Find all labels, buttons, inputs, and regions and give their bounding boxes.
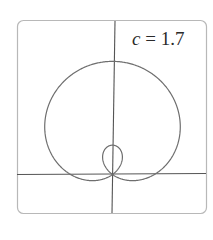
parameter-equals: = <box>140 28 160 49</box>
parameter-value: 1.7 <box>161 28 185 49</box>
parameter-label: c = 1.7 <box>132 28 184 50</box>
y-axis <box>112 21 115 213</box>
